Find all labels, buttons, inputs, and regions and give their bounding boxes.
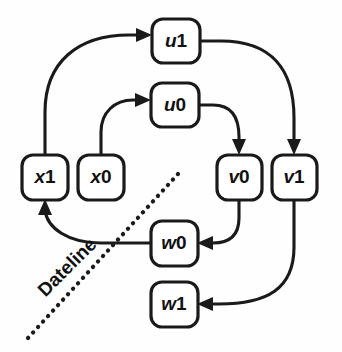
node-v0-label: v0 bbox=[228, 166, 249, 187]
edge-path-x0-to-u0 bbox=[101, 100, 142, 155]
node-w0-label: w0 bbox=[161, 232, 186, 253]
node-x0-label: x0 bbox=[89, 166, 111, 187]
node-w1-label: w1 bbox=[161, 293, 187, 314]
edge-path-u0-to-v0 bbox=[199, 105, 239, 144]
edge-v1-to-w1 bbox=[197, 200, 294, 311]
arrow-head-u1-to-v1 bbox=[287, 139, 301, 155]
arrow-head-x0-to-u0 bbox=[135, 93, 151, 107]
edge-path-v1-to-w1 bbox=[208, 200, 294, 304]
node-w1[interactable]: w1 bbox=[151, 282, 198, 327]
edge-u1-to-v1 bbox=[200, 41, 301, 155]
node-u0-label: u0 bbox=[164, 94, 186, 115]
node-x0[interactable]: x0 bbox=[78, 155, 124, 200]
node-v0[interactable]: v0 bbox=[217, 155, 262, 200]
node-v1-label: v1 bbox=[283, 166, 305, 187]
edge-w0-to-x1 bbox=[38, 199, 151, 243]
node-u1[interactable]: u1 bbox=[152, 19, 200, 63]
graph-diagram: Dateline u1 u0 x1 x0 v0 bbox=[0, 0, 342, 352]
arrow-head-u0-to-v0 bbox=[232, 139, 246, 155]
edge-u0-to-v0 bbox=[199, 105, 246, 155]
edge-x1-to-u1 bbox=[45, 28, 152, 155]
arrow-head-x1-to-u1 bbox=[136, 28, 152, 42]
edge-path-w0-to-x1 bbox=[45, 210, 151, 243]
node-w0[interactable]: w0 bbox=[151, 221, 198, 266]
edge-path-u1-to-v1 bbox=[200, 41, 294, 144]
node-v1[interactable]: v1 bbox=[272, 155, 317, 200]
edge-path-x1-to-u1 bbox=[45, 35, 143, 155]
node-u1-label: u1 bbox=[165, 30, 188, 51]
node-u0[interactable]: u0 bbox=[151, 83, 199, 127]
edge-v0-to-w0 bbox=[197, 200, 239, 250]
dateline-label: Dateline bbox=[33, 233, 100, 300]
node-x1[interactable]: x1 bbox=[22, 155, 68, 200]
node-x1-label: x1 bbox=[33, 166, 56, 187]
edge-x0-to-u0 bbox=[101, 93, 151, 155]
diagram-canvas: Dateline u1 u0 x1 x0 v0 bbox=[0, 0, 342, 352]
